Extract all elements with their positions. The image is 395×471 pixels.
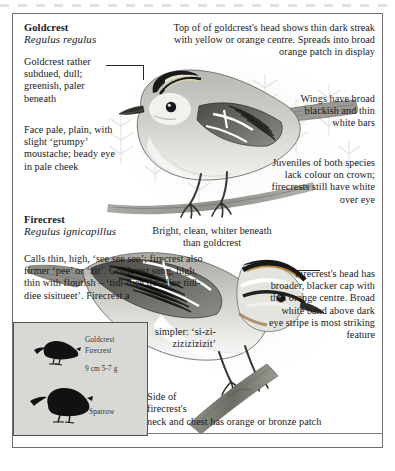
firecrest-head-caption: Firecrest's head has broader, blacker ca… — [265, 268, 375, 341]
sparrow-silhouette — [28, 385, 94, 425]
firecrest-neck-caption-cont: neck and chest has orange or bronze patc… — [147, 416, 379, 428]
goldcrest-plumage-caption: Goldcrest rather subdued, dull; greenish… — [24, 56, 116, 105]
identification-plate: Goldcrest Regulus regulus Goldcrest rath… — [12, 13, 383, 448]
page-edge-marks — [0, 4, 395, 7]
size-measurements: 9 cm 5-7 g — [85, 364, 117, 373]
firecrest-common-name: Firecrest — [24, 214, 154, 226]
firecrest-calls-caption: Calls thin, high, ‘see see see’; firecre… — [24, 253, 206, 302]
goldcrest-crown-caption: Top of of goldcrest's head shows thin da… — [170, 22, 375, 59]
leader-line-goldcrest-crown-v — [143, 65, 144, 80]
size-label-firecrest: Firecrest — [85, 346, 111, 355]
size-label-goldcrest: Goldcrest — [85, 335, 114, 344]
lower-divider-rule — [146, 433, 382, 434]
goldcrest-latin-name: Regulus regulus — [24, 33, 174, 46]
firecrest-underparts-caption: Bright, clean, whiter beneath than goldc… — [147, 225, 277, 249]
juveniles-caption: Juveniles of both species lack colour on… — [265, 157, 375, 206]
firecrest-calls-caption-cont: simpler: ‘si-zi-zizizizizit’ — [140, 326, 216, 350]
leader-line-goldcrest-crown-h — [106, 65, 144, 66]
size-label-sparrow: Sparrow — [89, 407, 114, 416]
goldcrest-face-caption: Face pale, plain, with slight ‘grumpy’ m… — [24, 124, 124, 173]
goldcrest-common-name: Goldcrest — [24, 22, 154, 34]
firecrest-neck-caption: Side of firecrest's — [147, 391, 217, 415]
goldcrest-wings-caption: Wings have broad blackish and thin white… — [281, 93, 375, 130]
goldcrest-silhouette — [32, 337, 82, 367]
size-comparison-box: Goldcrest Firecrest 9 cm 5-7 g Sparrow — [13, 322, 148, 436]
leader-line-firecrest-head — [296, 270, 320, 271]
